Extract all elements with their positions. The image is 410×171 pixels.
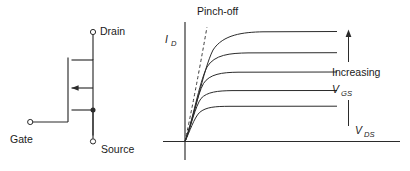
y-axis-label: I D bbox=[165, 33, 177, 48]
figure-canvas: Drain Gate Source Pinch-off bbox=[0, 0, 410, 171]
curve-vgs-4 bbox=[185, 53, 337, 142]
source-label: Source bbox=[101, 143, 134, 155]
curve-vgs-2 bbox=[185, 91, 337, 142]
increasing-vgs-annotation: Increasing V GS bbox=[332, 30, 381, 127]
jfet-symbol: Drain Gate Source bbox=[10, 25, 134, 155]
y-axis-label-main: I bbox=[165, 33, 168, 45]
x-axis-label-sub: DS bbox=[364, 130, 375, 139]
junction-dot bbox=[91, 108, 96, 113]
output-characteristics-plot: Pinch-off I D V DS Increasing V GS bbox=[163, 5, 400, 160]
y-axis-label-sub: D bbox=[171, 39, 177, 48]
gate-arrow-icon bbox=[72, 85, 79, 91]
vgs-label-sub: GS bbox=[341, 89, 352, 98]
vgs-label-main: V bbox=[332, 83, 340, 95]
increasing-label: Increasing bbox=[332, 66, 381, 78]
gate-terminal-circle bbox=[28, 119, 33, 124]
x-axis-label-main: V bbox=[355, 124, 363, 136]
drain-terminal-circle bbox=[90, 29, 95, 34]
curve-vgs-1 bbox=[185, 106, 337, 141]
source-terminal-circle bbox=[90, 139, 95, 144]
drain-label: Drain bbox=[100, 25, 125, 37]
gate-label: Gate bbox=[10, 133, 33, 145]
curve-vgs-5 bbox=[185, 32, 337, 142]
pinch-off-label: Pinch-off bbox=[197, 5, 238, 17]
x-axis-label: V DS bbox=[355, 124, 375, 139]
figure-svg: Drain Gate Source Pinch-off bbox=[0, 0, 410, 171]
up-arrow-icon bbox=[346, 30, 352, 38]
pinch-off-locus bbox=[185, 27, 207, 142]
